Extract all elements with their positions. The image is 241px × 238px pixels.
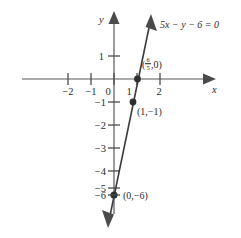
x-axis-arrow-icon (203, 74, 216, 85)
y-tick-label-neg6: −6 (95, 190, 106, 201)
coordinate-plane-figure: y x −2 −1 0 1 2 1 −1 −2 −3 −4 −5 −6 5x −… (0, 0, 241, 238)
point-x-intercept (134, 76, 141, 83)
y-tick-label-neg1: −1 (95, 97, 106, 108)
x-tick-label-neg1: −1 (85, 86, 96, 97)
y-axis (109, 11, 120, 214)
point-1-neg1 (130, 99, 137, 106)
x-axis (22, 74, 216, 85)
y-tick-label-neg3: −3 (95, 143, 106, 154)
x-intercept-label: ( 6 5 ,0) (142, 56, 162, 71)
x-tick-label-neg2: −2 (62, 86, 73, 97)
x-tick-label-zero: 0 (105, 86, 110, 97)
x-intercept-fraction-denominator: 5 (146, 64, 149, 71)
y-tick-label-neg2: −2 (95, 120, 106, 131)
x-axis-label: x (211, 84, 217, 95)
y-axis-label: y (98, 14, 104, 25)
y-tick-label-one: 1 (99, 51, 104, 62)
x-tick-label-one: 1 (126, 86, 131, 97)
line-lower-arrow-icon (102, 210, 114, 228)
line-upper-arrow-icon (146, 14, 158, 31)
graph-svg: y x −2 −1 0 1 2 1 −1 −2 −3 −4 −5 −6 5x −… (0, 0, 241, 238)
x-intercept-close-paren: ,0) (151, 59, 162, 71)
x-intercept-fraction-numerator: 6 (146, 56, 150, 63)
y-axis-arrow-icon (109, 11, 120, 24)
y-tick-label-neg4: −4 (95, 166, 107, 177)
equation-label: 5x − y − 6 = 0 (160, 19, 219, 30)
x-tick-label-two: 2 (156, 86, 161, 97)
point-label-0-neg6: (0,−6) (123, 190, 148, 202)
point-label-1-neg1: (1,−1) (137, 106, 162, 118)
